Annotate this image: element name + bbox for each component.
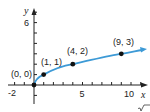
x-axis-label: x (140, 89, 146, 100)
x-tick-label-10: 10 (124, 89, 134, 99)
point-0-0 (32, 83, 37, 88)
point-label-1-1: (1, 1) (41, 57, 62, 67)
y-tick-label-6: 6 (24, 18, 29, 28)
point-label-4-2: (4, 2) (67, 46, 88, 56)
x-tick-label-neg2: -2 (8, 88, 16, 98)
point-label-9-3: (9, 3) (113, 37, 134, 47)
point-1-1 (41, 72, 46, 77)
chart: -2 5 10 x 6 y (0, 0) (1, 1) (4, 2) (9, 3… (0, 0, 150, 112)
curve-arrow-icon (140, 47, 147, 53)
point-4-2 (70, 62, 75, 67)
sqrt-glyph-icon (138, 105, 150, 111)
y-axis-label: y (23, 5, 29, 16)
y-axis: 6 y (23, 5, 37, 104)
x-axis-arrow-icon (141, 83, 148, 88)
point-label-0-0: (0, 0) (11, 69, 32, 79)
x-tick-label-5: 5 (80, 89, 85, 99)
point-9-3 (119, 51, 124, 56)
y-axis-arrow-icon (32, 8, 37, 15)
x-axis: -2 5 10 x (8, 82, 148, 100)
